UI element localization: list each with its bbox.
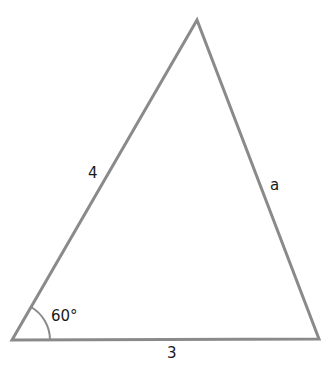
triangle-diagram: 4 a 3 60° xyxy=(0,0,333,380)
right-side-label: a xyxy=(270,176,279,194)
angle-label: 60° xyxy=(51,307,78,325)
angle-arc xyxy=(31,307,50,340)
left-side-label: 4 xyxy=(88,164,98,182)
base-label: 3 xyxy=(167,344,177,362)
